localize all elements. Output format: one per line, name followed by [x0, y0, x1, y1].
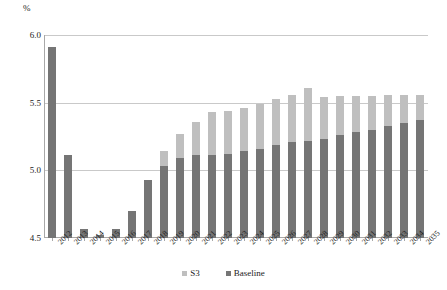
bar-chart: % 4.55.05.56.0 2012201320142015201620172… — [0, 0, 447, 290]
x-axis-tick-labels: 2012201320142015201620172018201920202021… — [44, 240, 428, 266]
x-axis-tick-label: 2033 — [392, 240, 398, 246]
bar-baseline[interactable] — [272, 145, 280, 238]
x-axis-tick-label: 2031 — [360, 240, 366, 246]
bar-group[interactable] — [348, 35, 364, 238]
bar-group[interactable] — [412, 35, 428, 238]
bar-group[interactable] — [172, 35, 188, 238]
y-axis-tick-labels: 4.55.05.56.0 — [0, 35, 41, 238]
x-axis-tick-label: 2019 — [168, 240, 174, 246]
chart-legend: S3Baseline — [0, 268, 447, 278]
x-axis-tick-label: 2012 — [56, 240, 62, 246]
x-axis-tick-label: 2023 — [232, 240, 238, 246]
bar-group[interactable] — [76, 35, 92, 238]
bar-baseline[interactable] — [384, 126, 392, 238]
bar-group[interactable] — [204, 35, 220, 238]
x-axis-tick-label: 2028 — [312, 240, 318, 246]
x-axis-tick-label: 2017 — [136, 240, 142, 246]
bar-baseline[interactable] — [48, 47, 56, 238]
bar-group[interactable] — [268, 35, 284, 238]
x-axis-tick-label: 2032 — [376, 240, 382, 246]
bar-group[interactable] — [220, 35, 236, 238]
bar-group[interactable] — [284, 35, 300, 238]
bar-group[interactable] — [124, 35, 140, 238]
bar-group[interactable] — [300, 35, 316, 238]
y-axis-tick-label: 5.0 — [1, 166, 41, 175]
bar-group[interactable] — [140, 35, 156, 238]
y-axis-tick-label: 4.5 — [1, 234, 41, 243]
bar-group[interactable] — [60, 35, 76, 238]
x-axis-tick-label: 2024 — [248, 240, 254, 246]
bar-baseline[interactable] — [416, 120, 424, 238]
x-axis-tick-label: 2026 — [280, 240, 286, 246]
legend-label: Baseline — [234, 268, 265, 278]
bar-baseline[interactable] — [64, 155, 72, 238]
bar-group[interactable] — [108, 35, 124, 238]
y-axis-unit-label: % — [23, 3, 31, 13]
legend-item[interactable]: S3 — [182, 268, 200, 278]
bar-group[interactable] — [396, 35, 412, 238]
plot-area — [44, 35, 428, 238]
y-axis-tick-label: 6.0 — [1, 31, 41, 40]
x-axis-tick-label: 2016 — [120, 240, 126, 246]
bar-baseline[interactable] — [368, 130, 376, 238]
x-axis-tick-label: 2034 — [408, 240, 414, 246]
bars-layer — [44, 35, 428, 238]
bar-baseline[interactable] — [400, 123, 408, 238]
bar-baseline[interactable] — [320, 139, 328, 238]
bar-baseline[interactable] — [192, 155, 200, 238]
legend-item[interactable]: Baseline — [226, 268, 265, 278]
bar-baseline[interactable] — [224, 154, 232, 238]
bar-group[interactable] — [252, 35, 268, 238]
bar-group[interactable] — [316, 35, 332, 238]
bar-group[interactable] — [188, 35, 204, 238]
bar-group[interactable] — [332, 35, 348, 238]
x-axis-tick-label: 2029 — [328, 240, 334, 246]
bar-baseline[interactable] — [256, 149, 264, 238]
x-axis-tick-label: 2035 — [424, 240, 430, 246]
x-axis-tick-label: 2030 — [344, 240, 350, 246]
bar-group[interactable] — [92, 35, 108, 238]
bar-group[interactable] — [44, 35, 60, 238]
bar-baseline[interactable] — [336, 135, 344, 238]
bar-baseline[interactable] — [352, 132, 360, 238]
x-axis-tick-label: 2014 — [88, 240, 94, 246]
bar-baseline[interactable] — [240, 151, 248, 238]
bar-group[interactable] — [236, 35, 252, 238]
bar-baseline[interactable] — [176, 158, 184, 238]
bar-group[interactable] — [380, 35, 396, 238]
legend-swatch-icon — [182, 271, 187, 276]
x-axis-tick-label: 2013 — [72, 240, 78, 246]
legend-label: S3 — [190, 268, 200, 278]
x-axis-tick-label: 2018 — [152, 240, 158, 246]
x-axis-tick-label: 2027 — [296, 240, 302, 246]
x-axis-tick-label: 2021 — [200, 240, 206, 246]
bar-group[interactable] — [156, 35, 172, 238]
legend-swatch-icon — [226, 271, 231, 276]
y-axis-tick-label: 5.5 — [1, 99, 41, 108]
bar-baseline[interactable] — [288, 142, 296, 238]
bar-baseline[interactable] — [304, 141, 312, 238]
bar-baseline[interactable] — [160, 166, 168, 238]
x-axis-tick-label: 2025 — [264, 240, 270, 246]
x-axis-tick-label: 2022 — [216, 240, 222, 246]
bar-group[interactable] — [364, 35, 380, 238]
bar-baseline[interactable] — [208, 155, 216, 238]
x-axis-tick-label: 2020 — [184, 240, 190, 246]
x-axis-tick-label: 2015 — [104, 240, 110, 246]
